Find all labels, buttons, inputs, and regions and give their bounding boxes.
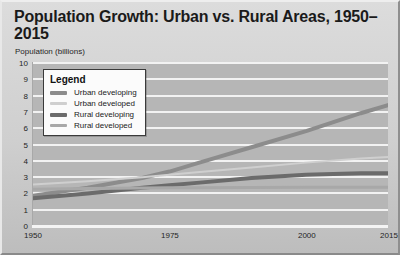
y-tick-label: 5 <box>12 140 28 149</box>
series-line <box>33 187 388 189</box>
legend-label: Urban developed <box>74 99 135 108</box>
x-tick-label: 2015 <box>380 231 398 240</box>
y-tick-label: 1 <box>12 205 28 214</box>
x-tick-label: 1975 <box>161 231 179 240</box>
x-axis-line <box>32 225 388 228</box>
legend-label: Rural developed <box>74 121 132 130</box>
legend: Legend Urban developingUrban developedRu… <box>43 69 146 136</box>
legend-title: Legend <box>50 74 137 85</box>
x-tick-label: 1950 <box>24 231 42 240</box>
chart-title: Population Growth: Urban vs. Rural Areas… <box>14 8 390 42</box>
y-tick-label: 3 <box>12 173 28 182</box>
y-tick-label: 10 <box>12 59 28 68</box>
legend-swatch <box>50 124 67 127</box>
y-tick-label: 0 <box>12 222 28 231</box>
legend-item: Urban developing <box>50 88 137 97</box>
legend-item: Rural developed <box>50 121 137 130</box>
plot-area: 012345678910 1950197520002015 Legend Urb… <box>32 62 388 225</box>
y-axis-label: Population (billions) <box>15 47 85 56</box>
legend-rows: Urban developingUrban developedRural dev… <box>50 88 137 130</box>
legend-label: Urban developing <box>74 88 137 97</box>
chart-frame: Population Growth: Urban vs. Rural Areas… <box>0 0 400 255</box>
y-tick-label: 7 <box>12 107 28 116</box>
y-tick-label: 9 <box>12 75 28 84</box>
y-tick-label: 8 <box>12 91 28 100</box>
x-tick-label: 2000 <box>298 231 316 240</box>
legend-swatch <box>50 102 67 105</box>
legend-swatch <box>50 91 67 95</box>
series-line <box>33 173 388 198</box>
legend-label: Rural developing <box>74 110 134 119</box>
y-tick-label: 2 <box>12 189 28 198</box>
legend-item: Rural developing <box>50 110 137 119</box>
y-tick-label: 4 <box>12 156 28 165</box>
legend-swatch <box>50 113 67 117</box>
legend-item: Urban developed <box>50 99 137 108</box>
y-tick-label: 6 <box>12 124 28 133</box>
